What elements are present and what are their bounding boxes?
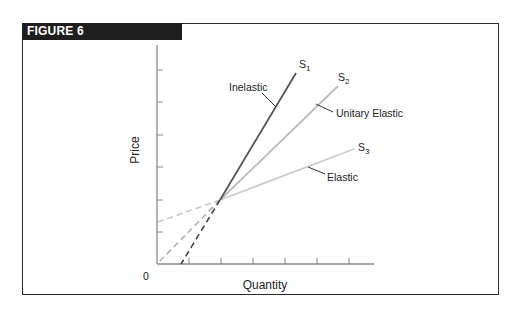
unitary-elastic-leader — [316, 104, 333, 112]
y-axis-label: Price — [128, 136, 142, 164]
y-axis-ticks — [157, 70, 163, 232]
x-axis-label: Quantity — [243, 278, 288, 292]
origin-label: 0 — [143, 270, 149, 282]
x-axis-ticks — [189, 258, 349, 264]
supply-elasticity-chart: S1 S2 S3 Inelastic Unitary Elastic Elast… — [0, 0, 525, 315]
s2-label: S2 — [338, 71, 350, 86]
s1-dashed-extension — [181, 200, 220, 264]
elastic-leader — [308, 167, 325, 174]
s1-label: S1 — [299, 58, 311, 73]
inelastic-leader — [262, 93, 276, 107]
s2-dashed-extension — [158, 200, 220, 263]
elastic-annotation: Elastic — [327, 171, 358, 183]
inelastic-annotation: Inelastic — [229, 81, 268, 93]
s3-label: S3 — [358, 141, 370, 156]
s3-dashed-extension — [158, 200, 220, 222]
unitary-elastic-annotation: Unitary Elastic — [336, 107, 403, 119]
